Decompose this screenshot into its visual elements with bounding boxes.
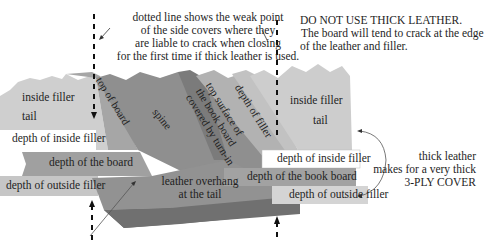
left-inside-filler-label: inside filler [22, 91, 75, 104]
right-tail-label: tail [313, 114, 328, 127]
right-depth-book-board-label: depth of the book board [247, 170, 357, 183]
warning-line: The board will tend to crack at the edge [301, 27, 484, 40]
right-depth-outside-filler-label: depth of outside filler [289, 188, 388, 201]
left-depth-board-label: depth of the board [49, 156, 133, 169]
note-line: makes for a very thick [356, 163, 476, 176]
note-line: dotted line shows the weak point [108, 11, 308, 24]
leather-overhang-label: leather overhang at the tail [150, 175, 250, 201]
left-depth-inside-filler-label: depth of inside filler [12, 132, 106, 145]
dotted-line-note: dotted line shows the weak point of the … [108, 11, 308, 63]
left-tail-label: tail [22, 110, 37, 123]
note-line: thick leather [376, 150, 476, 163]
right-inside-filler-label: inside filler [290, 94, 343, 107]
warning-line: of the leather and filler. [300, 40, 408, 53]
note-line: of the side covers where they [108, 24, 308, 37]
warning-title: DO NOT USE THICK LEATHER. [300, 14, 462, 27]
overhang-line: at the tail [150, 188, 250, 201]
left-depth-outside-filler-label: depth of outside filler [6, 179, 105, 192]
left-bottom-arrowhead [89, 200, 95, 207]
note-line: for the first time if thick leather is u… [108, 50, 308, 63]
brace-top-arrowhead [357, 129, 362, 133]
right-bottom-arrowhead [274, 216, 280, 224]
thick-leather-note: thick leather makes for a very thick 3-P… [376, 150, 476, 189]
note-line: 3-PLY COVER [376, 176, 476, 189]
note-line: are liable to crack when closing [108, 37, 308, 50]
overhang-line: leather overhang [150, 175, 250, 188]
